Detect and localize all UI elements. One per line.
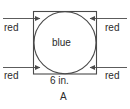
label-square-side-length: 6 in. <box>50 76 69 86</box>
label-red-bottom-right: red <box>105 71 119 81</box>
label-red-top-right: red <box>105 23 119 33</box>
label-figure-name: A <box>60 92 67 102</box>
label-blue-circle-region: blue <box>52 38 71 48</box>
label-red-bottom-left: red <box>4 71 18 81</box>
label-red-top-left: red <box>4 23 18 33</box>
geometry-figure-a: red red red red blue 6 in. A <box>0 0 130 109</box>
